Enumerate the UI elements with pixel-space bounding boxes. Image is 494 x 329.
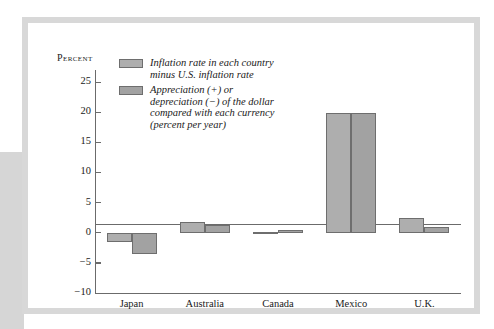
legend-label-2: Appreciation (+) ordepreciation (−) of t…: [150, 84, 274, 130]
x-axis-line: [95, 293, 461, 294]
legend-swatch-1: [119, 59, 143, 68]
y-tick-label: 0: [55, 227, 91, 238]
chart-legend: Inflation rate in each countryminus U.S.…: [119, 57, 349, 134]
y-axis-title: Percent: [57, 52, 93, 63]
bar-uk-series2: [424, 227, 449, 233]
y-tick-mark: [95, 82, 101, 83]
y-tick-label: −10: [55, 287, 91, 298]
legend-swatch-2: [119, 86, 143, 95]
left-gray-margin-block: [0, 152, 24, 329]
y-axis-line: [95, 70, 96, 294]
y-tick-label-text: 0: [86, 227, 91, 238]
legend-item-2: Appreciation (+) ordepreciation (−) of t…: [119, 84, 349, 130]
y-tick-label-text: 5: [86, 197, 91, 208]
y-tick-mark: [95, 142, 101, 143]
y-tick-label: 10: [55, 166, 91, 177]
y-tick-label-text: 25: [81, 76, 92, 87]
bar-uk-series1: [399, 218, 424, 232]
y-tick-mark: [95, 232, 101, 233]
y-tick-mark: [95, 172, 101, 173]
y-tick-label: 5: [55, 197, 91, 208]
legend-label-line: compared with each currency: [150, 107, 274, 119]
y-tick-label-text: 10: [81, 166, 92, 177]
y-tick-label-text: −10: [75, 287, 91, 298]
y-tick-mark: [95, 112, 101, 113]
y-tick-mark: [95, 293, 101, 294]
bar-chart: Percent −10−50510152025 JapanAustraliaCa…: [22, 17, 480, 314]
legend-label-line: depreciation (−) of the dollar: [150, 96, 274, 108]
y-tick-label-text: 20: [81, 106, 92, 117]
y-tick-label: 20: [55, 106, 91, 117]
bar-japan-series2: [132, 233, 157, 254]
y-tick-mark: [95, 262, 101, 263]
legend-label-line: minus U.S. inflation rate: [150, 69, 274, 81]
bar-australia-series1: [180, 222, 205, 232]
y-tick-label: −5: [55, 257, 91, 268]
y-tick-label-text: 15: [81, 136, 92, 147]
bar-mexico-series2: [351, 113, 376, 232]
y-tick-label-text: −5: [80, 257, 91, 268]
y-tick-label: 25: [55, 76, 91, 87]
legend-label-1: Inflation rate in each countryminus U.S.…: [150, 57, 274, 80]
bar-canada-series1: [253, 232, 278, 234]
bar-japan-series1: [107, 233, 132, 242]
y-tick-label: 15: [55, 136, 91, 147]
legend-label-line: Inflation rate in each country: [150, 57, 274, 69]
legend-item-1: Inflation rate in each countryminus U.S.…: [119, 57, 349, 80]
bar-australia-series2: [205, 225, 230, 232]
legend-label-line: (percent per year): [150, 119, 274, 131]
category-label-uk: U.K.: [379, 298, 469, 309]
legend-label-line: Appreciation (+) or: [150, 84, 274, 96]
bar-canada-series2: [278, 230, 303, 233]
y-tick-mark: [95, 202, 101, 203]
